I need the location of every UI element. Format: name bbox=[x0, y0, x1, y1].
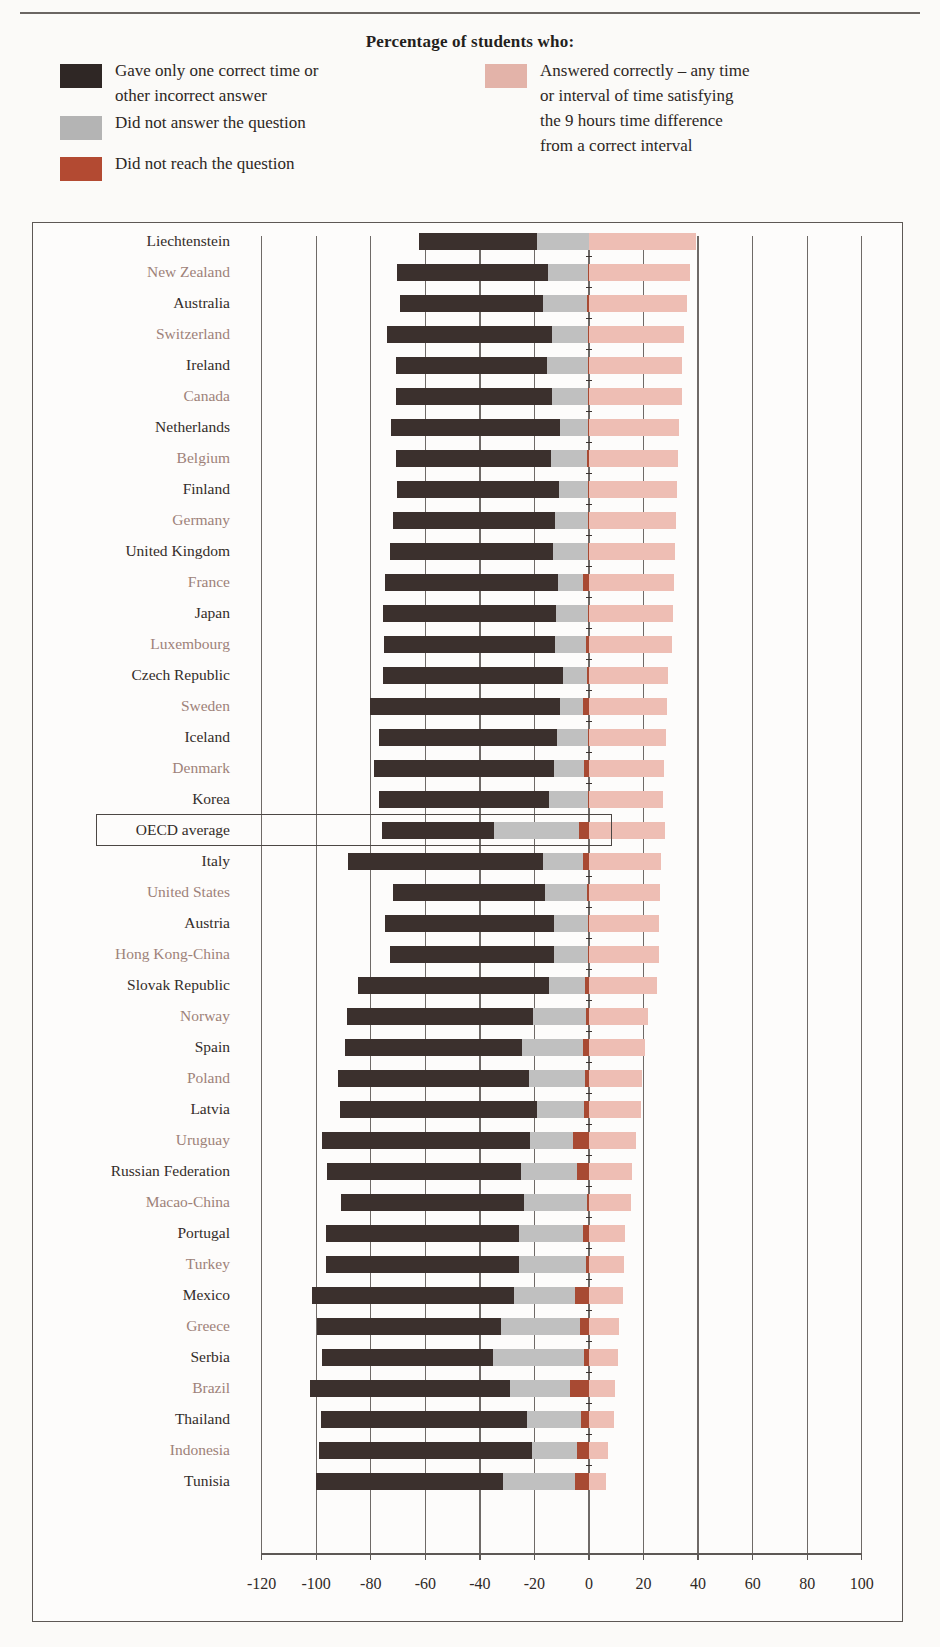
segment-incorrect bbox=[390, 946, 554, 963]
segment-correct bbox=[589, 543, 675, 560]
zero-axis-minor-tick bbox=[586, 876, 592, 878]
row-label-germany: Germany bbox=[60, 510, 230, 530]
segment-correct bbox=[589, 1008, 648, 1025]
zero-axis-minor-tick bbox=[586, 1155, 592, 1157]
segment-no-answer bbox=[560, 698, 583, 715]
segment-correct bbox=[589, 636, 672, 653]
segment-no-answer bbox=[554, 946, 588, 963]
axis-tick-label--40: -40 bbox=[450, 1575, 510, 1593]
zero-axis-minor-tick bbox=[586, 690, 592, 692]
segment-no-answer bbox=[519, 1256, 586, 1273]
segment-incorrect bbox=[396, 388, 552, 405]
zero-axis-minor-tick bbox=[586, 504, 592, 506]
zero-axis-minor-tick bbox=[586, 1062, 592, 1064]
row-label-iceland: Iceland bbox=[60, 727, 230, 747]
zero-axis-minor-tick bbox=[586, 628, 592, 630]
zero-axis-minor-tick bbox=[586, 1279, 592, 1281]
row-label-denmark: Denmark bbox=[60, 758, 230, 778]
zero-axis-minor-tick bbox=[586, 1093, 592, 1095]
axis-tick-label-60: 60 bbox=[723, 1575, 783, 1593]
segment-no-answer bbox=[557, 729, 588, 746]
gridline-40 bbox=[697, 236, 698, 1553]
gridline-100 bbox=[861, 236, 862, 1553]
segment-correct bbox=[589, 326, 684, 343]
segment-incorrect bbox=[348, 853, 543, 870]
axis-tick-label--60: -60 bbox=[395, 1575, 455, 1593]
row-label-indonesia: Indonesia bbox=[60, 1440, 230, 1460]
segment-correct bbox=[589, 1225, 625, 1242]
zero-axis-minor-tick bbox=[586, 597, 592, 599]
axis-tick-label-40: 40 bbox=[668, 1575, 728, 1593]
segment-incorrect bbox=[310, 1380, 509, 1397]
segment-no-answer bbox=[537, 1101, 584, 1118]
zero-axis-minor-tick bbox=[586, 411, 592, 413]
x-axis-line bbox=[262, 1553, 862, 1555]
segment-correct bbox=[589, 295, 687, 312]
segment-no-answer bbox=[560, 419, 588, 436]
zero-axis-minor-tick bbox=[586, 256, 592, 258]
segment-incorrect bbox=[338, 1070, 530, 1087]
row-label-luxembourg: Luxembourg bbox=[60, 634, 230, 654]
segment-correct bbox=[589, 791, 663, 808]
segment-no-answer bbox=[547, 357, 588, 374]
segment-correct bbox=[589, 419, 679, 436]
segment-no-answer bbox=[524, 1194, 588, 1211]
axis-tick-label-20: 20 bbox=[614, 1575, 674, 1593]
segment-incorrect bbox=[345, 1039, 522, 1056]
segment-not-reached bbox=[580, 1318, 589, 1335]
row-label-thailand: Thailand bbox=[60, 1409, 230, 1429]
segment-not-reached bbox=[581, 1411, 589, 1428]
zero-axis-minor-tick bbox=[586, 318, 592, 320]
segment-correct bbox=[589, 853, 661, 870]
segment-correct bbox=[589, 264, 690, 281]
row-label-hong-kong-china: Hong Kong-China bbox=[60, 944, 230, 964]
row-label-russian-federation: Russian Federation bbox=[60, 1161, 230, 1181]
row-label-mexico: Mexico bbox=[60, 1285, 230, 1305]
segment-correct bbox=[589, 1070, 642, 1087]
segment-no-answer bbox=[551, 450, 587, 467]
row-label-korea: Korea bbox=[60, 789, 230, 809]
segment-correct bbox=[589, 1256, 624, 1273]
zero-axis-minor-tick bbox=[586, 380, 592, 382]
zero-axis-minor-tick bbox=[586, 783, 592, 785]
segment-correct bbox=[589, 1411, 614, 1428]
row-label-liechtenstein: Liechtenstein bbox=[60, 231, 230, 251]
zero-axis-minor-tick bbox=[586, 1403, 592, 1405]
row-label-poland: Poland bbox=[60, 1068, 230, 1088]
segment-incorrect bbox=[419, 233, 537, 250]
segment-incorrect bbox=[347, 1008, 533, 1025]
segment-no-answer bbox=[503, 1473, 575, 1490]
zero-axis-minor-tick bbox=[586, 1434, 592, 1436]
segment-incorrect bbox=[319, 1442, 532, 1459]
segment-no-answer bbox=[530, 1132, 574, 1149]
row-label-new-zealand: New Zealand bbox=[60, 262, 230, 282]
row-label-brazil: Brazil bbox=[60, 1378, 230, 1398]
segment-no-answer bbox=[552, 326, 588, 343]
segment-not-reached bbox=[570, 1380, 589, 1397]
row-label-united-states: United States bbox=[60, 882, 230, 902]
zero-axis-minor-tick bbox=[586, 1000, 592, 1002]
segment-no-answer bbox=[543, 295, 587, 312]
segment-no-answer bbox=[533, 1008, 586, 1025]
segment-correct bbox=[589, 1132, 636, 1149]
segment-incorrect bbox=[387, 326, 552, 343]
zero-axis-minor-tick bbox=[586, 535, 592, 537]
axis-tick-label--80: -80 bbox=[341, 1575, 401, 1593]
segment-no-answer bbox=[552, 388, 588, 405]
row-label-ireland: Ireland bbox=[60, 355, 230, 375]
segment-correct bbox=[589, 1349, 618, 1366]
row-label-canada: Canada bbox=[60, 386, 230, 406]
oecd-average-highlight-box bbox=[96, 814, 612, 846]
segment-incorrect bbox=[393, 884, 546, 901]
segment-incorrect bbox=[374, 760, 555, 777]
row-label-sweden: Sweden bbox=[60, 696, 230, 716]
segment-correct bbox=[589, 512, 676, 529]
segment-no-answer bbox=[558, 574, 583, 591]
row-label-netherlands: Netherlands bbox=[60, 417, 230, 437]
segment-no-answer bbox=[493, 1349, 584, 1366]
segment-not-reached bbox=[577, 1163, 589, 1180]
row-label-australia: Australia bbox=[60, 293, 230, 313]
segment-incorrect bbox=[321, 1411, 526, 1428]
zero-axis-minor-tick bbox=[586, 473, 592, 475]
segment-correct bbox=[589, 233, 696, 250]
